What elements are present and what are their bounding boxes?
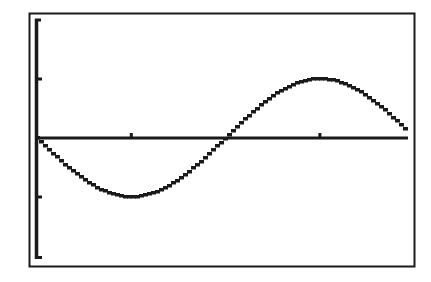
plot-pixel (191, 166, 196, 170)
plot-pixel (59, 159, 64, 163)
x-axis (36, 133, 408, 138)
plot-pixel (223, 137, 228, 141)
plot-pixel (395, 119, 400, 123)
plot-pixel (231, 129, 236, 133)
screen-frame (30, 14, 415, 267)
plot-pixel (79, 175, 84, 179)
plot-pixel (239, 121, 244, 125)
plot-pixel (247, 114, 252, 118)
plot-pixel (63, 163, 68, 167)
plot-pixel (43, 144, 48, 148)
plot-pixel (183, 173, 188, 177)
plot-pixel (55, 155, 60, 159)
plot-pixel (387, 112, 392, 116)
plot-pixel (367, 96, 372, 100)
plot-pixel (255, 107, 260, 111)
plot-pixel (379, 105, 384, 109)
plot-pixel (399, 123, 404, 127)
plot-pixel (267, 97, 272, 101)
plot-pixel (51, 152, 56, 156)
plot-pixel (175, 179, 180, 183)
plot-pixel (67, 166, 72, 170)
plot-pixel (91, 183, 96, 187)
plot-pixel (179, 176, 184, 180)
plot-pixel (35, 136, 40, 140)
plot-pixel (235, 125, 240, 129)
plot-pixel (167, 184, 172, 188)
plot-pixel (363, 93, 368, 97)
plot-pixel (211, 148, 216, 152)
plot-pixel (75, 172, 80, 176)
plot-pixel (207, 152, 212, 156)
calculator-graph-screen (0, 0, 431, 282)
plot-pixel (371, 99, 376, 103)
plot-pixel (227, 133, 232, 137)
x-axis-tick (318, 133, 321, 138)
plot-pixel (271, 94, 276, 98)
plot-pixel (195, 163, 200, 167)
plot-pixel (403, 127, 408, 131)
plot-pixel (39, 140, 44, 144)
x-axis-tick (130, 133, 133, 138)
plot-pixel (263, 100, 268, 104)
plot-pixel (83, 178, 88, 182)
y-axis-tick (36, 196, 42, 199)
plot-pixel (203, 156, 208, 160)
plot-pixel (187, 170, 192, 174)
plot-pixel (375, 102, 380, 106)
plot-pixel (71, 169, 76, 173)
plot-pixel (359, 90, 364, 94)
plot-pixel (47, 148, 52, 152)
plot-pixel (251, 110, 256, 114)
y-axis-tick (36, 78, 42, 81)
plot-pixel (383, 108, 388, 112)
plot-pixel (259, 103, 264, 107)
plot-pixel (199, 160, 204, 164)
plot-pixel (219, 141, 224, 145)
plot-pixel (215, 144, 220, 148)
plot-pixel (243, 117, 248, 121)
plot-pixel (391, 116, 396, 120)
